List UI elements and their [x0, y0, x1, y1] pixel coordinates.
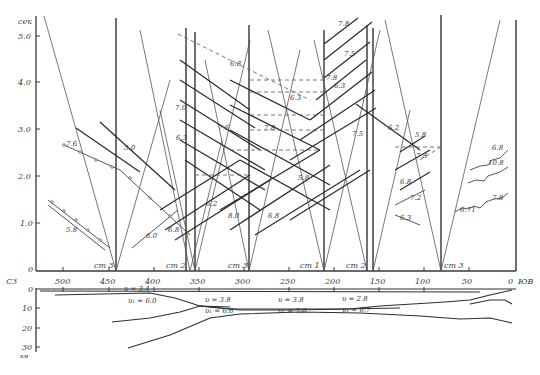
curve-label-r3: 7.2 [410, 194, 422, 202]
station-label-3b: ст 3 [228, 261, 248, 270]
depth-tick-20: 20 [21, 324, 32, 333]
curve-label-c8: 5.8 [298, 174, 310, 182]
layer-label-4: υ = 3.8 [278, 296, 304, 304]
depth-unit-label: км [20, 352, 29, 359]
curve-label-u4: 7.5 [352, 130, 364, 138]
curve-label-c9: 6.3 [290, 94, 302, 102]
dist-tick-300: 300 [235, 277, 250, 286]
dist-tick-500: 500 [55, 277, 70, 286]
station-label-1: ст 1 [300, 261, 320, 270]
dist-tick-450: 450 [99, 277, 115, 286]
curve-label-5.0: 5.0 [124, 144, 136, 152]
curve-label-r0: 5.8 [415, 131, 427, 139]
layer-label-6: υ = 2.8 [342, 295, 368, 303]
curve-label-u2: 7.8 [326, 74, 338, 82]
time-tick-2: 2.0 [17, 172, 31, 181]
curve-label-r2: 6.8 [400, 178, 412, 186]
dist-tick-150: 150 [370, 277, 385, 286]
depth-tick-10: 10 [22, 304, 32, 313]
layer-label-2: υ = 3.8 [205, 296, 231, 304]
time-tick-3: 3.0 [18, 125, 31, 134]
depth-tick-0: 0 [28, 285, 33, 294]
curve-label-f3: 6.71 [460, 206, 476, 214]
boundary-3 [128, 312, 512, 348]
curve-label-c5: 6.2 [206, 200, 218, 208]
boundary-1-right [470, 300, 512, 304]
nw-label: СЗ [6, 277, 17, 286]
station-label-2b: ст 2 [346, 261, 366, 270]
curve-label-f2: 7.8 [492, 194, 504, 202]
curve-label-r1: 7.8 [416, 152, 428, 160]
time-unit-label: сек [18, 17, 32, 26]
curve-label-u5: 6.2 [388, 124, 400, 132]
curve-label-f0: 6.8 [492, 144, 504, 152]
curve-label-c4: 7.8 [264, 124, 276, 132]
curve-label-7.6: 7.6 [66, 140, 78, 148]
se-label: ЮВ [517, 277, 534, 286]
dist-tick-200: 200 [324, 277, 340, 286]
seismic-hodograph-figure: сек 5.0 4.0 3.0 2.0 1.0 0 СЗ 500 450 400… [0, 0, 540, 375]
curve-label-f1: 10.8 [488, 159, 504, 167]
dist-tick-350: 350 [190, 277, 205, 286]
dist-tick-250: 250 [279, 277, 295, 286]
time-tick-4: 4.0 [17, 78, 31, 87]
layer-label-5: υ₁ = 7.0 [278, 307, 307, 315]
curve-label-c7: 6.8 [268, 212, 280, 220]
curve-label-u3: 6.3 [334, 82, 346, 90]
curve-label-5.8: 5.8 [66, 226, 78, 234]
curve-label-c3: 7.6 [218, 124, 230, 132]
layer-label-0: υ = 3.4 [124, 285, 150, 293]
curve-label-c1: 7.0 [175, 104, 187, 112]
curve-label-c2: 6.3 [176, 134, 188, 142]
time-tick-0: 0 [28, 265, 33, 274]
time-tick-1: 1.0 [20, 219, 33, 228]
curve-label-c6: 8.0 [228, 212, 240, 220]
boundary-2-left [112, 306, 200, 322]
dist-tick-50: 50 [462, 277, 472, 286]
direct-wave-rays [44, 16, 500, 271]
surface-line-2 [40, 291, 480, 292]
depth-tick-30: 30 [22, 343, 32, 352]
curve-label-r4: 6.3 [400, 214, 412, 222]
layer-label-7: υ₁ = 6.7 [342, 306, 371, 314]
dist-tick-100: 100 [415, 277, 430, 286]
lower-panel: 0 10 20 30 км υ = 3.4 υ₁ = 6.0 υ = 3.8 υ… [20, 285, 516, 359]
station-label-3c: ст 3 [444, 261, 464, 270]
curve-label-c0: 6.8 [230, 60, 242, 68]
time-tick-5: 5.0 [18, 32, 31, 41]
curve-label-u1: 7.5 [344, 50, 356, 58]
layer-label-1: υ₁ = 6.0 [128, 297, 157, 305]
dist-tick-0: 0 [508, 277, 513, 286]
station-label-3a: ст 3 [94, 261, 114, 270]
station-label-2a: ст 2 [166, 261, 186, 270]
layer-label-3: υ₁ = 6.6 [205, 307, 234, 315]
upper-panel: сек 5.0 4.0 3.0 2.0 1.0 0 СЗ 500 450 400… [6, 15, 534, 286]
curve-label-6.0: 6.0 [146, 232, 158, 240]
curve-label-u0: 7.8 [338, 20, 350, 28]
